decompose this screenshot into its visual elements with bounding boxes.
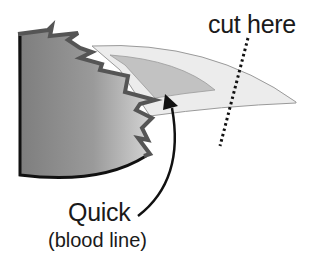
cut-here-label: cut here xyxy=(208,10,296,39)
nail-diagram xyxy=(0,0,322,268)
quick-label: Quick xyxy=(68,198,130,227)
blood-line-label: (blood line) xyxy=(48,229,147,252)
